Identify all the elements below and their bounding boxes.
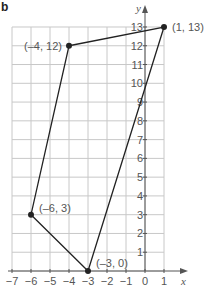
y-tick-label: 2 [137,227,143,239]
y-tick-label: 4 [137,190,143,202]
coordinate-plot: xy−7−6−5−4−3−2−10112345678910111213(–4, … [0,0,208,293]
x-tick-label: −1 [120,275,133,287]
y-tick-label: 7 [137,134,143,146]
y-tick-label: 12 [131,40,143,52]
vertex-label: (–3, 0) [96,257,128,269]
x-tick-label: −3 [82,275,95,287]
vertex-point [161,24,167,30]
y-axis-label: y [135,2,141,14]
x-axis-arrow-icon [180,268,188,274]
y-axis-arrow-icon [142,5,148,13]
vertex-label: (1, 13) [172,21,204,33]
y-tick-label: 5 [137,171,143,183]
vertex-label: (–6, 3) [39,202,71,214]
vertex-point [66,43,72,49]
y-tick-label: 1 [137,246,143,258]
y-tick-label: 10 [131,77,143,89]
y-tick-label: 6 [137,152,143,164]
y-tick-label: 3 [137,209,143,221]
x-tick-label: −7 [6,275,19,287]
x-tick-label: −2 [101,275,114,287]
x-axis-label: x [180,275,186,287]
x-tick-label: 0 [142,275,148,287]
y-tick-label: 8 [137,115,143,127]
x-tick-label: −5 [44,275,57,287]
x-tick-label: 1 [161,275,167,287]
x-tick-label: −4 [63,275,76,287]
x-tick-label: −6 [25,275,38,287]
vertex-label: (–4, 12) [24,40,62,52]
vertex-point [85,268,91,274]
vertex-point [28,212,34,218]
y-tick-label: 11 [132,59,143,71]
shape-outline [31,27,164,271]
